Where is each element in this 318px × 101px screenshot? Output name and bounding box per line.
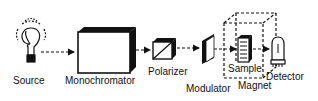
label-modulator: Modulator (186, 84, 230, 94)
label-monochromator: Monochromator (65, 76, 135, 86)
label-detector: Detector (266, 72, 304, 82)
modulator-plate-icon (202, 34, 214, 64)
light-bulb-icon (17, 19, 46, 63)
sample-holder-icon (238, 35, 252, 62)
label-polarizer: Polarizer (148, 67, 187, 77)
polarizer-cube-icon (153, 38, 176, 59)
photomultiplier-tube-icon (271, 37, 285, 67)
label-sample: Sample (228, 64, 262, 74)
box-icon (78, 27, 136, 73)
label-source: Source (13, 76, 45, 86)
label-magnet: Magnet (238, 81, 271, 91)
